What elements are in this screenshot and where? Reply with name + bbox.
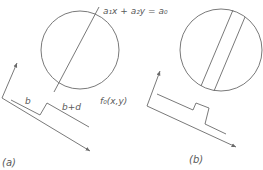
panel-a: a₁x + a₂y = a₀ f₀(x,y) b b+d (a)	[2, 6, 168, 168]
line-equation-label: a₁x + a₂y = a₀	[103, 6, 168, 16]
strip-edge-left	[201, 10, 233, 86]
axis-arrow-up-b	[147, 71, 160, 106]
function-label: f₀(x,y)	[100, 96, 127, 106]
caption-b: (b)	[189, 154, 203, 165]
step-low-label: b	[25, 96, 31, 106]
step-profile-b	[157, 94, 226, 134]
object-circle-a	[41, 11, 119, 89]
strip-edge-right	[214, 17, 245, 91]
object-circle-b	[180, 9, 262, 91]
axis-arrow-up-a	[2, 63, 17, 98]
caption-a: (a)	[2, 157, 16, 168]
panel-b: (b)	[147, 9, 262, 165]
axis-arrow-right-b	[147, 106, 236, 147]
projection-line	[54, 7, 99, 92]
diagram-canvas: a₁x + a₂y = a₀ f₀(x,y) b b+d (a) (b)	[0, 0, 263, 170]
step-high-label: b+d	[62, 102, 81, 112]
